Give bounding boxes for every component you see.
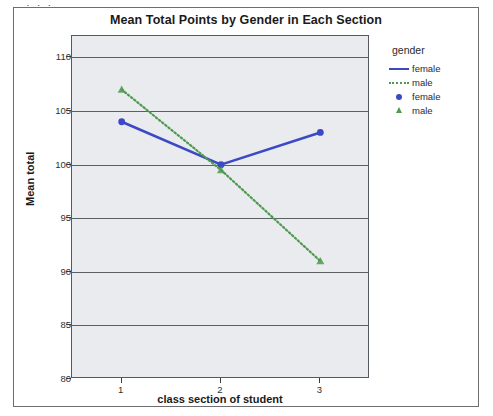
legend: gender femalemalefemalemale xyxy=(386,44,472,118)
data-point-female-1 xyxy=(118,118,125,125)
chart-title: Mean Total Points by Gender in Each Sect… xyxy=(14,13,478,27)
legend-item-label: male xyxy=(412,105,433,116)
legend-item: male xyxy=(386,76,472,89)
plot-area xyxy=(71,35,369,378)
x-tick-label: 2 xyxy=(217,384,222,395)
legend-item: male xyxy=(386,104,472,117)
x-tick-mark xyxy=(319,378,320,383)
chart-output-frame: Mean Total Points by Gender in Each Sect… xyxy=(13,7,479,407)
x-tick-label: 1 xyxy=(118,384,123,395)
legend-key-dotted-line xyxy=(386,76,412,89)
x-tick-label: 3 xyxy=(317,384,322,395)
series-layer xyxy=(72,36,368,377)
series-line-male xyxy=(122,90,321,262)
legend-item-label: male xyxy=(412,77,433,88)
triangle-marker-icon xyxy=(396,107,402,113)
legend-item: female xyxy=(386,62,472,75)
solid-line-icon xyxy=(389,68,409,70)
circle-marker-icon xyxy=(396,94,402,100)
dotted-line-icon xyxy=(389,82,409,84)
legend-item-label: female xyxy=(412,91,441,102)
y-tick-mark xyxy=(66,378,71,379)
legend-item: female xyxy=(386,90,472,103)
x-tick-mark xyxy=(220,378,221,383)
clipped-top-text: · · · xyxy=(0,0,493,6)
legend-key-solid-line xyxy=(386,62,412,75)
legend-title: gender xyxy=(386,44,472,56)
legend-key-circle-marker xyxy=(386,90,412,103)
data-point-male-1 xyxy=(118,86,126,93)
legend-item-label: female xyxy=(412,63,441,74)
legend-key-triangle-marker xyxy=(386,104,412,117)
x-tick-mark xyxy=(121,378,122,383)
legend-items: femalemalefemalemale xyxy=(386,62,472,117)
series-line-female xyxy=(122,122,321,165)
plot-inner xyxy=(72,36,368,377)
data-point-female-3 xyxy=(317,129,324,136)
